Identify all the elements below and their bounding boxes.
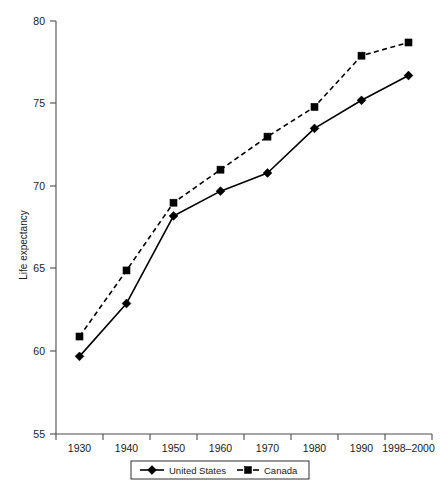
series-line — [80, 76, 409, 357]
series-line — [80, 42, 409, 336]
y-tick-label: 60 — [33, 345, 45, 357]
legend-label-united-states: United States — [169, 465, 226, 476]
x-tick-label: 1960 — [209, 442, 233, 454]
x-axis-tick-labels: 1930 1940 1950 1960 1970 1980 1990 1998–… — [68, 442, 435, 454]
y-tick-label: 65 — [33, 262, 45, 274]
chart-legend: United States Canada — [131, 461, 309, 479]
x-tick-label: 1990 — [350, 442, 374, 454]
square-marker-icon — [405, 39, 412, 46]
chart-figure: 80 75 70 65 60 55 Life expectancy 1930 1… — [0, 0, 440, 486]
legend-entry-united-states: United States — [140, 465, 226, 476]
chart-axes — [56, 21, 432, 434]
legend-label-canada: Canada — [264, 465, 298, 476]
life-expectancy-line-chart: 80 75 70 65 60 55 Life expectancy 1930 1… — [0, 0, 440, 486]
y-axis-tick-labels: 80 75 70 65 60 55 — [33, 15, 45, 440]
square-marker-icon — [76, 333, 83, 340]
x-tick-label: 1980 — [303, 442, 327, 454]
x-tick-label: 1950 — [162, 442, 186, 454]
diamond-marker-icon — [216, 187, 225, 196]
square-marker-icon — [245, 467, 252, 474]
y-axis-ticks — [50, 21, 56, 434]
y-tick-label: 75 — [33, 97, 45, 109]
chart-series-layer — [75, 39, 413, 361]
y-tick-label: 55 — [33, 428, 45, 440]
square-marker-icon — [358, 52, 365, 59]
y-tick-label: 80 — [33, 15, 45, 27]
x-tick-label: 1930 — [68, 442, 92, 454]
diamond-marker-icon — [169, 212, 178, 221]
x-tick-label: 1940 — [115, 442, 139, 454]
diamond-marker-icon — [357, 96, 366, 105]
series-united-states — [75, 71, 413, 361]
y-tick-label: 70 — [33, 180, 45, 192]
square-marker-icon — [217, 166, 224, 173]
x-tick-label: 1998–2000 — [382, 442, 435, 454]
square-marker-icon — [170, 199, 177, 206]
diamond-marker-icon — [404, 71, 413, 80]
y-axis-title: Life expectancy — [18, 210, 29, 280]
x-tick-label: 1970 — [256, 442, 280, 454]
series-canada — [76, 39, 412, 340]
square-marker-icon — [264, 133, 271, 140]
square-marker-icon — [123, 267, 130, 274]
x-axis-ticks — [56, 434, 432, 440]
square-marker-icon — [311, 103, 318, 110]
